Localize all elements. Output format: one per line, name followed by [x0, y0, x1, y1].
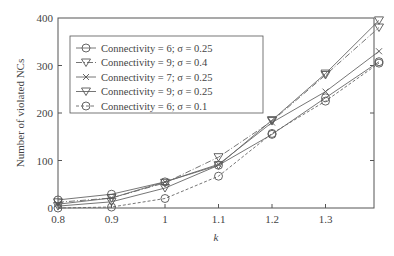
- x-tick-label: 0.9: [105, 213, 119, 225]
- legend-label: Connectivity = 9; σ = 0.25: [101, 86, 212, 97]
- x-tick-label: 1.3: [319, 213, 333, 225]
- y-tick-label: 400: [37, 12, 54, 24]
- legend-label: Connectivity = 6; σ = 0.1: [101, 101, 207, 112]
- x-tick-label: 1.2: [265, 213, 279, 225]
- x-axis: 0.8 0.9 1 1.1 1.2 1.3 k: [51, 204, 333, 243]
- legend-label: Connectivity = 7; σ = 0.25: [101, 72, 212, 83]
- x-tick-label: 1.1: [212, 213, 226, 225]
- legend: Connectivity = 6; σ = 0.25Connectivity =…: [70, 36, 263, 113]
- y-tick-label: 100: [37, 155, 54, 167]
- y-tick-label: 200: [37, 107, 54, 119]
- line-chart: 0 100 200 300 400 Number of violated NCs…: [0, 0, 394, 256]
- y-tick-label: 300: [37, 60, 54, 72]
- x-marker: [376, 48, 382, 54]
- legend-label: Connectivity = 6; σ = 0.25: [101, 43, 212, 54]
- legend-label: Connectivity = 9; σ = 0.4: [101, 57, 208, 68]
- y-axis-label: Number of violated NCs: [14, 59, 26, 167]
- x-tick-label: 1: [162, 213, 168, 225]
- x-axis-label: k: [214, 231, 220, 243]
- x-tick-label: 0.8: [51, 213, 65, 225]
